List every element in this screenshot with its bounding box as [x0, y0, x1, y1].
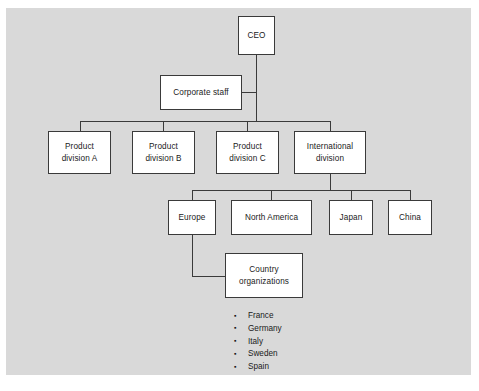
connector-division-bus [80, 121, 330, 122]
node-japan-label: Japan [340, 212, 363, 223]
connector-corporate-staff [242, 92, 257, 93]
node-product-division-c-label: Product division C [229, 141, 266, 163]
connector-drop-product-division-c [247, 121, 248, 131]
connector-europe-drop [192, 235, 193, 276]
connector-drop-north-america [271, 190, 272, 200]
node-corporate-staff-label: Corporate staff [173, 87, 229, 98]
node-china-label: China [399, 212, 421, 223]
connector-drop-china [410, 190, 411, 200]
node-product-division-a-label: Product division A [62, 141, 98, 163]
connector-drop-product-division-b [163, 121, 164, 131]
connector-drop-international-division [330, 121, 331, 131]
connector-drop-europe [192, 190, 193, 200]
node-ceo-label: CEO [247, 30, 265, 41]
country-organizations-list: FranceGermanyItalySwedenSpain [218, 310, 282, 374]
node-europe[interactable]: Europe [168, 200, 216, 235]
node-international-division-label: International division [307, 141, 353, 163]
country-list-item: France [234, 310, 282, 323]
country-list-item: Sweden [234, 348, 282, 361]
node-product-division-b-label: Product division B [145, 141, 181, 163]
connector-ceo-trunk [256, 55, 257, 122]
connector-europe-to-country [192, 276, 225, 277]
connector-international-trunk [330, 174, 331, 191]
node-corporate-staff[interactable]: Corporate staff [160, 75, 242, 110]
country-list-item: Germany [234, 323, 282, 336]
node-north-america[interactable]: North America [231, 200, 312, 235]
diagram-panel: CEO Corporate staff Product division A P… [6, 8, 471, 375]
node-japan[interactable]: Japan [329, 200, 373, 235]
country-list-item: Italy [234, 336, 282, 349]
connector-drop-product-division-a [80, 121, 81, 131]
node-product-division-a[interactable]: Product division A [48, 131, 111, 174]
node-china[interactable]: China [388, 200, 432, 235]
node-product-division-b[interactable]: Product division B [132, 131, 195, 174]
diagram-canvas: CEO Corporate staff Product division A P… [0, 0, 479, 391]
connector-drop-japan [351, 190, 352, 200]
node-international-division[interactable]: International division [294, 131, 366, 174]
node-product-division-c[interactable]: Product division C [216, 131, 279, 174]
node-country-organizations[interactable]: Country organizations [225, 253, 303, 298]
node-north-america-label: North America [245, 212, 298, 223]
node-country-organizations-label: Country organizations [239, 264, 289, 286]
node-europe-label: Europe [178, 212, 205, 223]
connector-region-bus [192, 190, 410, 191]
country-list-item: Spain [234, 361, 282, 374]
node-ceo[interactable]: CEO [238, 16, 275, 55]
